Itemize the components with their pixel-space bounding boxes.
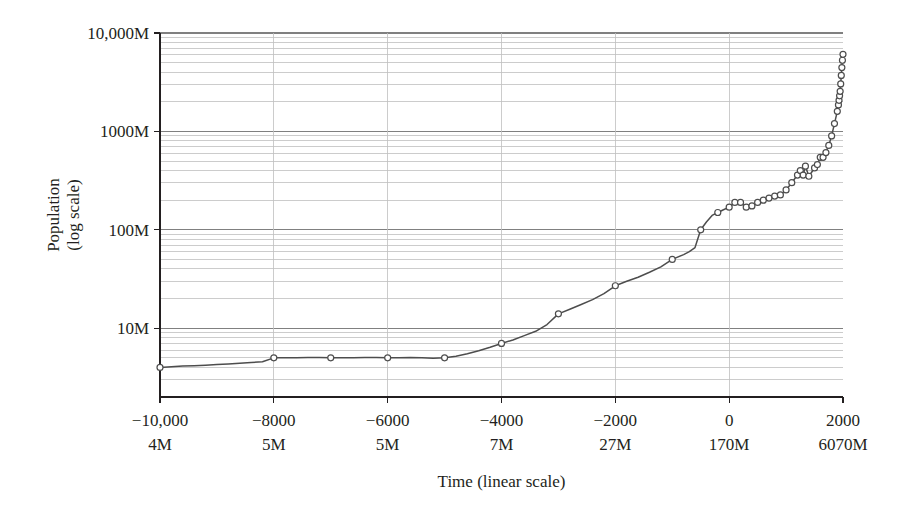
population-chart-figure: 10,000M1000M100M10M −10,000−8000−6000−40…	[0, 0, 906, 508]
svg-text:−2000: −2000	[594, 411, 638, 430]
svg-text:10,000M: 10,000M	[87, 24, 149, 43]
svg-text:−4000: −4000	[480, 411, 524, 430]
svg-text:−8000: −8000	[252, 411, 296, 430]
svg-text:Time (linear scale): Time (linear scale)	[438, 472, 566, 491]
svg-text:27M: 27M	[599, 435, 631, 454]
svg-text:0: 0	[725, 411, 734, 430]
svg-text:1000M: 1000M	[100, 122, 149, 141]
chart-canvas: 10,000M1000M100M10M −10,000−8000−6000−40…	[0, 0, 906, 508]
svg-text:5M: 5M	[262, 435, 286, 454]
svg-text:2000: 2000	[826, 411, 860, 430]
x-axis-title: Time (linear scale)	[438, 472, 566, 491]
svg-text:5M: 5M	[376, 435, 400, 454]
svg-text:7M: 7M	[490, 435, 514, 454]
y-axis-title: Population(log scale)	[44, 178, 83, 252]
svg-text:Population(log scale): Population(log scale)	[44, 178, 83, 252]
svg-text:170M: 170M	[709, 435, 750, 454]
svg-text:10M: 10M	[117, 319, 149, 338]
svg-text:6070M: 6070M	[818, 435, 867, 454]
svg-text:100M: 100M	[108, 221, 149, 240]
svg-text:−10,000: −10,000	[132, 411, 188, 430]
svg-text:4M: 4M	[148, 435, 172, 454]
chart-background	[0, 0, 906, 508]
svg-text:−6000: −6000	[366, 411, 410, 430]
